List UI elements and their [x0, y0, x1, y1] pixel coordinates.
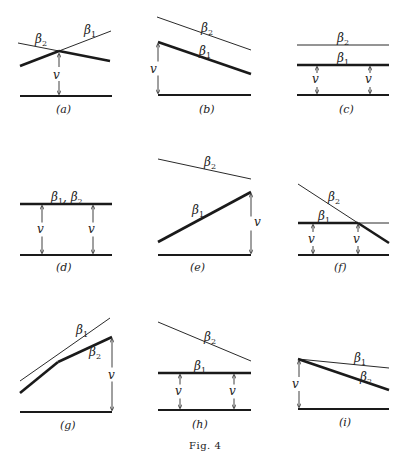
panel-caption: (g)	[60, 419, 76, 432]
panel-caption: (b)	[199, 103, 215, 116]
panel-caption: (h)	[192, 418, 208, 431]
panel-a: β2β1v(a)	[18, 23, 112, 116]
velocity-label: v	[150, 62, 157, 76]
panel-caption: (i)	[339, 416, 351, 429]
thick-line	[20, 51, 59, 66]
thick-line	[358, 223, 389, 243]
beta-label: β1	[353, 351, 366, 367]
beta-label: β2	[88, 345, 101, 361]
velocity-label: v	[175, 384, 182, 398]
panel-b: β2β1v(b)	[150, 17, 251, 116]
thin-line	[20, 318, 110, 381]
panel-e: β2β1v(e)	[158, 155, 261, 274]
beta-label: β1	[191, 203, 204, 219]
beta-label: β2	[200, 21, 213, 37]
panel-caption: (e)	[190, 261, 205, 274]
velocity-label: v	[353, 232, 360, 246]
velocity-label: v	[308, 232, 315, 246]
velocity-label: v	[108, 368, 115, 382]
panel-g: β1β2v(g)	[20, 318, 115, 432]
panel-i: β1β2v(i)	[292, 351, 389, 429]
velocity-label: v	[229, 384, 236, 398]
beta-label: β1	[198, 44, 211, 60]
beta-label: β2	[327, 190, 340, 206]
beta-label: β2	[203, 330, 216, 346]
velocity-label: v	[365, 72, 372, 86]
panel-caption: (a)	[56, 103, 71, 116]
beta-label: β2	[359, 370, 372, 386]
beta-label: β1	[83, 23, 96, 39]
velocity-label: v	[254, 215, 261, 229]
panel-caption: (f)	[334, 261, 347, 274]
figure-4-diagram: β2β1v(a)β2β1v(b)β2β1vv(c)β1, β2vv(d)β2β1…	[0, 0, 409, 461]
beta-label: β2	[203, 155, 216, 171]
beta-label: β2	[34, 32, 47, 48]
figure-caption: Fig. 4	[189, 440, 221, 451]
thick-line	[158, 192, 251, 242]
beta-label: β1	[336, 51, 349, 67]
velocity-label: v	[37, 222, 44, 236]
thick-line	[59, 51, 110, 61]
thick-line	[58, 337, 112, 362]
velocity-label: v	[312, 72, 319, 86]
panel-caption: (c)	[339, 103, 354, 116]
panel-c: β2β1vv(c)	[297, 31, 389, 116]
beta-label: β2	[336, 31, 349, 47]
velocity-label: v	[292, 377, 299, 391]
velocity-label: v	[88, 222, 95, 236]
panel-caption: (d)	[56, 261, 72, 274]
beta-label: β1, β2	[50, 190, 83, 206]
beta-label: β1	[75, 323, 88, 339]
panel-d: β1, β2vv(d)	[20, 190, 112, 274]
beta-label: β1	[193, 359, 206, 375]
panel-h: β2β1vv(h)	[158, 322, 251, 431]
beta-label: β1	[317, 209, 330, 225]
panel-f: β2β1vv(f)	[298, 184, 389, 274]
panels-group: β2β1v(a)β2β1v(b)β2β1vv(c)β1, β2vv(d)β2β1…	[18, 17, 389, 432]
velocity-label: v	[53, 68, 60, 82]
